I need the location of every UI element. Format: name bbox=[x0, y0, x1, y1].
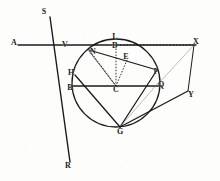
point-label-h: H bbox=[68, 69, 74, 77]
point-label-e: E bbox=[123, 53, 128, 61]
point-label-g: G bbox=[117, 128, 123, 136]
segment-line-X-to-Y-ray bbox=[188, 45, 194, 91]
point-label-y: Y bbox=[188, 91, 194, 99]
segment-line-G-to-Y-ray bbox=[120, 91, 188, 127]
point-label-c: C bbox=[113, 86, 119, 94]
point-label-s: S bbox=[42, 8, 46, 16]
segments-layer bbox=[18, 17, 196, 162]
point-label-b: B bbox=[67, 84, 72, 92]
point-label-a: A bbox=[11, 39, 17, 47]
point-label-l: L bbox=[112, 33, 117, 41]
point-label-d: D bbox=[112, 42, 118, 50]
point-label-n: N bbox=[90, 48, 96, 56]
point-label-v: V bbox=[62, 41, 68, 49]
point-label-x: X bbox=[193, 38, 199, 46]
point-label-r: R bbox=[65, 162, 71, 170]
segment-line-F-to-G-chord bbox=[120, 70, 157, 127]
point-label-f: F bbox=[154, 68, 159, 76]
geometry-figure: SAXLDVNEHFBCQYGR bbox=[0, 0, 220, 181]
segment-line-X-to-Q-faint bbox=[158, 45, 194, 84]
segment-radius-C-to-E-dotted bbox=[116, 60, 127, 86]
point-label-q: Q bbox=[158, 81, 164, 89]
figure-canvas bbox=[0, 0, 220, 181]
